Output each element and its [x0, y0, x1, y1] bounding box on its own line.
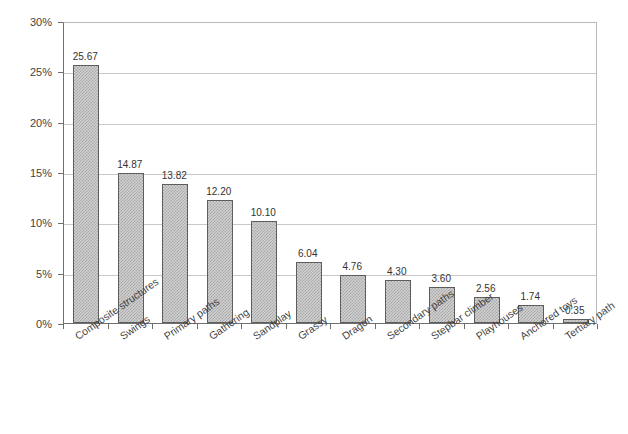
y-axis-tick-label: 15% — [0, 168, 52, 179]
bar-chart: 30%25%20%15%10%5%0% Composite structures… — [0, 0, 628, 434]
y-axis-tick-label: 5% — [0, 269, 52, 280]
x-axis-tick-mark — [152, 324, 153, 329]
bar — [162, 184, 188, 323]
x-axis-tick-mark — [241, 324, 242, 329]
bar-value-label: 4.30 — [373, 267, 421, 277]
bar — [296, 262, 322, 323]
bar-value-label: 3.60 — [417, 274, 465, 284]
bar-value-label: 10.10 — [239, 208, 287, 218]
bar-value-label: 4.76 — [328, 262, 376, 272]
x-axis-tick-mark — [597, 324, 598, 329]
gridline — [64, 73, 596, 74]
y-axis-tick-label: 20% — [0, 118, 52, 129]
gridline — [64, 124, 596, 125]
y-axis-tick-label: 30% — [0, 17, 52, 28]
bar-value-label: 1.74 — [506, 292, 554, 302]
bar-value-label: 25.67 — [61, 52, 109, 62]
x-axis-tick-mark — [197, 324, 198, 329]
bar-value-label: 0.35 — [551, 306, 599, 316]
x-axis-tick-mark — [108, 324, 109, 329]
gridline — [64, 174, 596, 175]
gridline — [64, 224, 596, 225]
y-axis-tick-label: 10% — [0, 218, 52, 229]
x-axis-tick-mark — [375, 324, 376, 329]
bar-value-label: 2.56 — [462, 284, 510, 294]
x-axis-tick-mark — [63, 324, 64, 329]
bar — [73, 65, 99, 323]
x-axis-tick-mark — [464, 324, 465, 329]
x-axis-tick-mark — [508, 324, 509, 329]
x-axis-tick-mark — [330, 324, 331, 329]
bar-value-label: 14.87 — [106, 160, 154, 170]
bar-value-label: 13.82 — [150, 171, 198, 181]
x-axis-tick-mark — [553, 324, 554, 329]
bar-value-label: 12.20 — [195, 187, 243, 197]
bar — [251, 221, 277, 323]
bar-value-label: 6.04 — [284, 249, 332, 259]
x-axis-tick-mark — [286, 324, 287, 329]
plot-area — [63, 22, 597, 324]
x-axis-tick-mark — [419, 324, 420, 329]
y-axis-tick-label: 25% — [0, 67, 52, 78]
y-axis-tick-label: 0% — [0, 319, 52, 330]
gridline — [64, 275, 596, 276]
